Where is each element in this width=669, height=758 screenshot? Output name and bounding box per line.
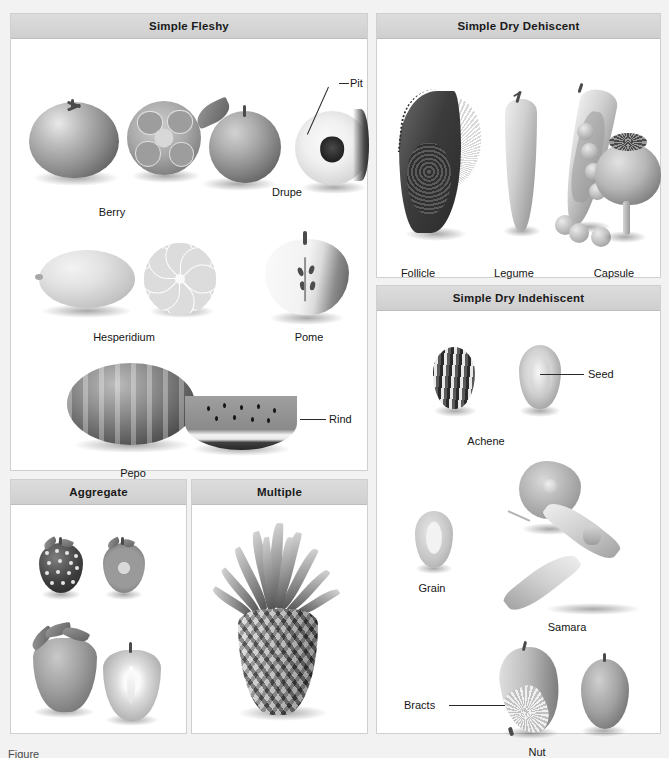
legume-closed-art [495, 89, 549, 241]
pome-section-art [259, 229, 359, 329]
pepo-slice-art [181, 394, 305, 462]
nut-acorn-art [493, 641, 577, 745]
capsule-art [589, 127, 669, 245]
hesperidium-whole-art [33, 242, 143, 322]
rind-leader-line [300, 419, 326, 420]
figure-caption: Figure [8, 748, 308, 758]
specimen-label-follicle: Follicle [401, 267, 435, 279]
blackberry-whole-art [33, 537, 93, 607]
pineapple-art [224, 523, 340, 731]
specimen-label-legume: Legume [494, 267, 534, 279]
panel-body-simple-fleshy: Pit Berry Drupe [11, 39, 367, 470]
specimen-label-berry: Berry [99, 206, 125, 218]
panel-body-multiple [192, 505, 367, 733]
callout-label-seed: Seed [588, 368, 614, 380]
panel-title-aggregate: Aggregate [11, 480, 186, 505]
drupe-whole-art [193, 89, 285, 193]
callout-label-rind: Rind [329, 413, 352, 425]
callout-label-bracts: Bracts [404, 699, 435, 711]
specimen-label-grain: Grain [419, 582, 446, 594]
panel-multiple: Multiple [191, 479, 368, 734]
strawberry-section-art [95, 640, 177, 732]
pit-leader-tick [339, 83, 349, 84]
panel-body-simple-dry-indehiscent: Seed Achene Grain Samara [377, 311, 660, 733]
panel-simple-fleshy: Simple Fleshy [10, 13, 368, 471]
samara-paired-art [525, 507, 661, 623]
panel-title-multiple: Multiple [192, 480, 367, 505]
panel-body-simple-dry-dehiscent: Follicle Legume Capsule [377, 39, 660, 277]
specimen-label-achene: Achene [467, 435, 504, 447]
panel-simple-dry-dehiscent: Simple Dry Dehiscent [376, 13, 661, 278]
drupe-section-art [293, 107, 379, 197]
panel-body-aggregate [11, 505, 186, 733]
achene-whole-art [423, 343, 489, 423]
specimen-label-capsule: Capsule [594, 267, 634, 279]
bracts-leader-line [449, 705, 505, 706]
specimen-label-pome: Pome [295, 331, 324, 343]
grain-art [407, 507, 465, 579]
specimen-label-hesperidium: Hesperidium [93, 331, 155, 343]
panel-aggregate: Aggregate [10, 479, 187, 734]
specimen-label-pepo: Pepo [120, 467, 146, 479]
specimen-label-drupe: Drupe [272, 186, 302, 198]
berry-whole-art [27, 94, 123, 186]
panel-title-simple-dry-indehiscent: Simple Dry Indehiscent [377, 286, 660, 311]
seed-leader-line [540, 374, 584, 375]
specimen-label-nut: Nut [528, 746, 545, 758]
callout-label-pit: Pit [350, 77, 363, 89]
blackberry-section-art [97, 537, 155, 607]
specimen-label-samara: Samara [548, 621, 587, 633]
panel-title-simple-dry-dehiscent: Simple Dry Dehiscent [377, 14, 660, 39]
panel-title-simple-fleshy: Simple Fleshy [11, 14, 367, 39]
follicle-art [393, 85, 485, 245]
nut-bare-art [573, 651, 643, 743]
panel-simple-dry-indehiscent: Simple Dry Indehiscent Seed Achene Grain [376, 285, 661, 734]
achene-section-art [509, 341, 577, 423]
hesperidium-section-art [141, 239, 225, 323]
